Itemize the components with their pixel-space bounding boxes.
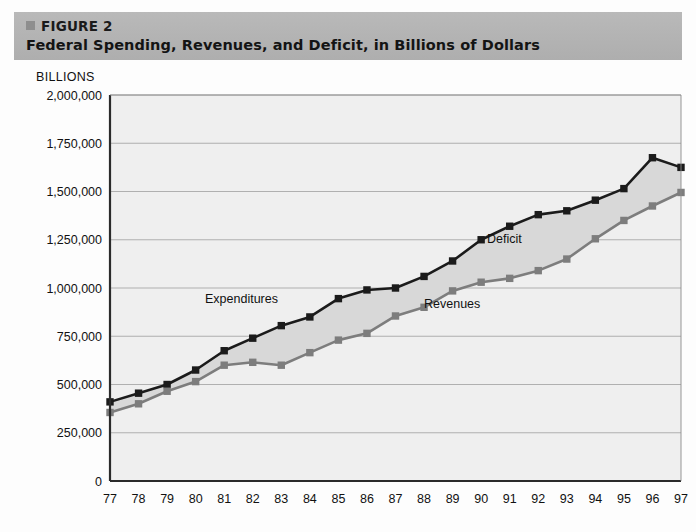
x-axis-tick-label: 87 — [389, 492, 403, 506]
x-axis-tick-label: 82 — [246, 492, 260, 506]
y-axis-tick-label: 1,000,000 — [46, 282, 102, 296]
y-axis-tick-label: 500,000 — [57, 378, 102, 392]
x-axis-tick-label: 83 — [274, 492, 288, 506]
y-axis-ticks: 0250,000500,000750,0001,000,0001,250,000… — [46, 89, 102, 489]
x-axis-tick-label: 79 — [160, 492, 174, 506]
x-axis-tick-label: 80 — [189, 492, 203, 506]
y-axis-tick-label: 1,250,000 — [46, 233, 102, 247]
chart-svg: 0250,000500,000750,0001,000,0001,250,000… — [0, 0, 696, 532]
series-label-expenditures: Expenditures — [205, 292, 278, 306]
x-axis-tick-label: 81 — [217, 492, 231, 506]
series-label-deficit: Deficit — [487, 232, 522, 246]
x-axis-tick-label: 84 — [303, 492, 317, 506]
y-axis-tick-label: 1,500,000 — [46, 185, 102, 199]
x-axis-tick-label: 97 — [674, 492, 688, 506]
x-axis-ticks: 7778798081828384858687888990919293949596… — [103, 492, 688, 506]
x-axis-tick-label: 89 — [446, 492, 460, 506]
x-axis-tick-label: 90 — [474, 492, 488, 506]
x-axis-tick-label: 93 — [560, 492, 574, 506]
y-axis-tick-label: 2,000,000 — [46, 89, 102, 103]
y-axis-tick-label: 1,750,000 — [46, 137, 102, 151]
x-axis-tick-label: 92 — [531, 492, 545, 506]
x-axis-tick-label: 95 — [617, 492, 631, 506]
x-axis-tick-label: 78 — [132, 492, 146, 506]
x-axis-tick-label: 94 — [588, 492, 602, 506]
x-axis-tick-label: 88 — [417, 492, 431, 506]
chart-canvas: 0250,000500,000750,0001,000,0001,250,000… — [0, 0, 696, 532]
y-axis-tick-label: 750,000 — [57, 330, 102, 344]
y-axis-tick-label: 0 — [95, 475, 102, 489]
x-axis-tick-label: 86 — [360, 492, 374, 506]
x-axis-tick-label: 77 — [103, 492, 117, 506]
x-axis-tick-label: 96 — [645, 492, 659, 506]
x-axis-tick-label: 85 — [331, 492, 345, 506]
y-axis-tick-label: 250,000 — [57, 426, 102, 440]
series-label-revenues: Revenues — [424, 297, 480, 311]
x-axis-tick-label: 91 — [503, 492, 517, 506]
figure-page: FIGURE 2 Federal Spending, Revenues, and… — [0, 0, 696, 532]
